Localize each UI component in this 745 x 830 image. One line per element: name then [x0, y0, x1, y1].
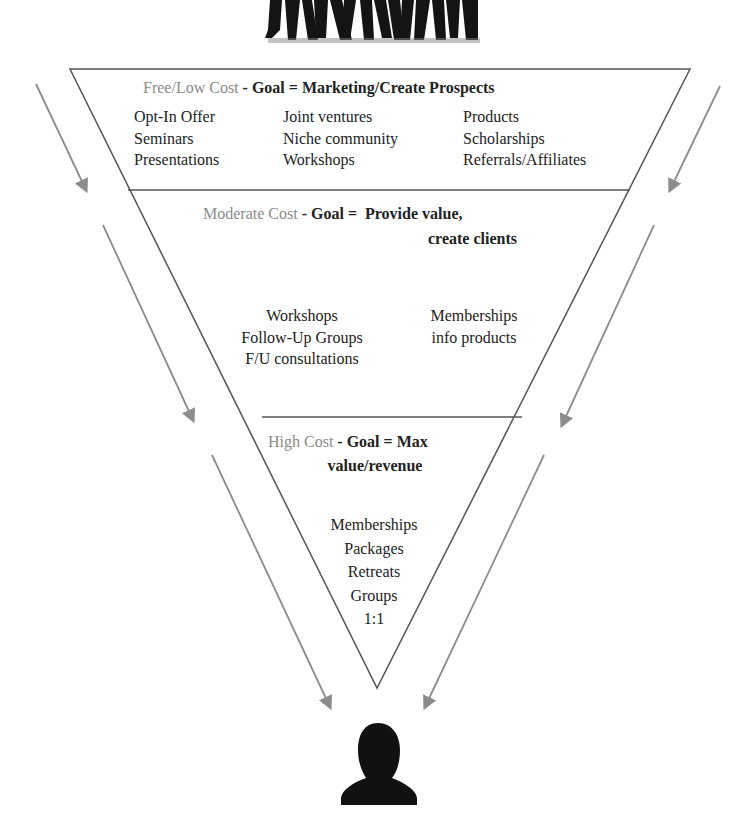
tier-2-heading: Moderate Cost - Goal = Provide value,	[203, 203, 462, 224]
tier-3-goal-line-1: Max	[397, 433, 428, 450]
tier-3-items: Memberships Packages Retreats Groups 1:1	[305, 513, 443, 631]
arrow-left-2	[103, 225, 193, 420]
person-silhouette-icon	[341, 723, 417, 805]
tier-3-item: 1:1	[305, 607, 443, 631]
tier-3-goal-line-2: value/revenue	[300, 455, 450, 476]
tier-1-item: Opt-In Offer	[134, 106, 219, 128]
tier-1-goal: Marketing/Create Prospects	[302, 79, 495, 96]
tier-1-item: Referrals/Affiliates	[463, 149, 586, 171]
tier-1-item: Joint ventures	[283, 106, 398, 128]
tier-3-cost-label: High Cost	[268, 433, 333, 450]
tier-1-item: Niche community	[283, 128, 398, 150]
tier-1-item: Presentations	[134, 149, 219, 171]
tier-3-item: Retreats	[305, 560, 443, 584]
tier-2-item: Memberships	[410, 305, 538, 327]
tier-1-item: Scholarships	[463, 128, 586, 150]
tier-1-cost-label: Free/Low Cost	[143, 79, 239, 96]
tier-3-item: Groups	[305, 584, 443, 608]
arrow-right-1	[670, 86, 720, 190]
tier-1-column-3: Products Scholarships Referrals/Affiliat…	[463, 106, 586, 171]
tier-2-item: info products	[410, 327, 538, 349]
tier-1-item: Workshops	[283, 149, 398, 171]
arrow-left-1	[36, 84, 86, 190]
crowd-silhouette-icon	[265, 0, 480, 43]
arrow-right-2	[562, 225, 654, 425]
tier-2-goal-line-2: create clients	[428, 228, 517, 249]
tier-2-column-2: Memberships info products	[410, 305, 538, 348]
tier-1-column-1: Opt-In Offer Seminars Presentations	[134, 106, 219, 171]
tier-2-goal-prefix: - Goal =	[298, 205, 361, 222]
tier-2-cost-label: Moderate Cost	[203, 205, 298, 222]
tier-3-goal-prefix: - Goal =	[333, 433, 396, 450]
tier-2-item: Workshops	[218, 305, 386, 327]
tier-1-goal-prefix: - Goal =	[239, 79, 302, 96]
tier-2-item: Follow-Up Groups	[218, 327, 386, 349]
tier-1-heading: Free/Low Cost - Goal = Marketing/Create …	[143, 77, 495, 98]
tier-3-heading: High Cost - Goal = Max	[268, 431, 428, 452]
tier-1-item: Products	[463, 106, 586, 128]
tier-2-item: F/U consultations	[218, 348, 386, 370]
tier-3-item: Packages	[305, 537, 443, 561]
tier-1-column-2: Joint ventures Niche community Workshops	[283, 106, 398, 171]
tier-1-item: Seminars	[134, 128, 219, 150]
tier-2-column-1: Workshops Follow-Up Groups F/U consultat…	[218, 305, 386, 370]
tier-2-goal-line-1: Provide value,	[365, 205, 462, 222]
tier-3-item: Memberships	[305, 513, 443, 537]
